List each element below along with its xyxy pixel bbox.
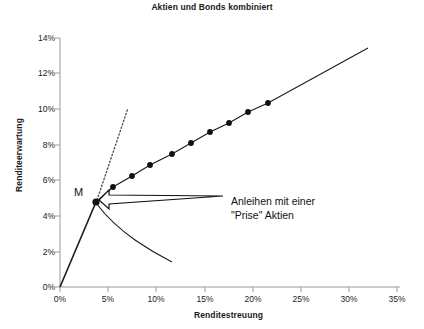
- data-point-5: [188, 140, 194, 146]
- data-point-8: [245, 109, 251, 115]
- y-axis-ticks: [55, 38, 60, 287]
- annotation-line-1: Anleihen mit einer: [231, 195, 315, 208]
- x-axis-ticks: [60, 287, 397, 292]
- data-point-4: [169, 151, 175, 157]
- data-point-markers: [92, 100, 271, 205]
- data-point-6: [207, 129, 213, 135]
- data-point-2: [129, 173, 135, 179]
- annotation-line-2: "Prise" Aktien: [231, 209, 294, 222]
- point-m-label: M: [74, 186, 83, 198]
- series-line-efficient-frontier: [96, 48, 368, 202]
- data-point-3: [147, 162, 153, 168]
- data-point-1: [110, 184, 116, 190]
- series-line-origin-to-m: [60, 202, 96, 287]
- data-point-9: [265, 100, 271, 106]
- series-line-inefficient-branch: [96, 203, 172, 262]
- callout-arrow: [99, 190, 223, 209]
- data-point-m: [92, 198, 99, 205]
- chart-figure: Aktien und Bonds kombiniert Renditeerwar…: [0, 0, 424, 329]
- plot-area: [0, 0, 424, 329]
- data-point-7: [226, 120, 232, 126]
